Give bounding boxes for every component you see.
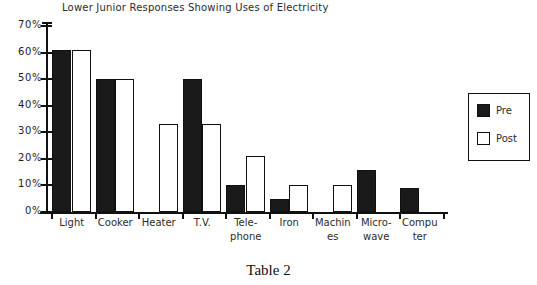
category-label-line1: Iron bbox=[280, 217, 299, 228]
y-axis-tick-label: 10% bbox=[18, 178, 42, 189]
y-axis-tick bbox=[41, 25, 52, 27]
bar-post bbox=[246, 156, 265, 212]
category-label: Computer bbox=[390, 216, 450, 244]
bar-post bbox=[202, 124, 221, 212]
y-axis-tick bbox=[41, 52, 52, 54]
y-axis-tick bbox=[41, 158, 52, 160]
bar-pre bbox=[400, 188, 419, 212]
category-label-line1: T.V. bbox=[194, 217, 211, 228]
bar-post bbox=[72, 50, 91, 212]
category-label-line2: ter bbox=[390, 230, 450, 244]
category-label-line1: Light bbox=[59, 217, 84, 228]
bar-pre bbox=[226, 185, 245, 212]
y-axis-tick-label: 40% bbox=[18, 99, 42, 110]
y-axis-tick-labels: 0%10%20%30%40%50%60%70% bbox=[2, 26, 42, 212]
y-axis-tick bbox=[41, 78, 52, 80]
y-axis-tick-label: 0% bbox=[25, 205, 42, 216]
bar-pre bbox=[52, 50, 71, 212]
legend-swatch-post-icon bbox=[477, 132, 490, 145]
category-label-line1: Micro- bbox=[361, 217, 392, 228]
y-axis-tick-label: 30% bbox=[18, 125, 42, 136]
y-axis-tick bbox=[41, 184, 52, 186]
bar-pre bbox=[270, 199, 289, 212]
chart-title: Lower Junior Responses Showing Uses of E… bbox=[62, 2, 402, 13]
legend-item-pre: Pre bbox=[477, 104, 512, 117]
category-label-line1: Compu bbox=[402, 217, 438, 228]
category-label-line1: Tele- bbox=[234, 217, 257, 228]
bar-pre bbox=[183, 79, 202, 212]
category-label-line2: phone bbox=[216, 230, 276, 244]
y-axis-tick-label: 50% bbox=[18, 72, 42, 83]
y-axis-tick-label: 60% bbox=[18, 46, 42, 57]
bar-pre bbox=[96, 79, 115, 212]
y-axis-tick-label: 70% bbox=[18, 19, 42, 30]
bar-post bbox=[115, 79, 134, 212]
y-axis-top-cap bbox=[42, 22, 52, 24]
y-axis-tick bbox=[41, 105, 52, 107]
legend-label-post: Post bbox=[496, 133, 517, 144]
bar-post bbox=[289, 185, 308, 212]
plot-area: 0%10%20%30%40%50%60%70% bbox=[46, 26, 448, 212]
legend-item-post: Post bbox=[477, 132, 517, 145]
category-label-line1: Cooker bbox=[98, 217, 133, 228]
bar-post bbox=[159, 124, 178, 212]
legend-swatch-pre-icon bbox=[477, 104, 490, 117]
legend-label-pre: Pre bbox=[496, 105, 512, 116]
category-axis-labels: LightCookerHeaterT.V.Tele-phoneIronMachi… bbox=[46, 216, 456, 262]
bar-pre bbox=[357, 170, 376, 213]
y-axis-tick bbox=[41, 131, 52, 133]
category-label-line1: Machin bbox=[315, 217, 351, 228]
chart-legend: Pre Post bbox=[468, 93, 530, 161]
bar-post bbox=[333, 185, 352, 212]
y-axis-tick-label: 20% bbox=[18, 152, 42, 163]
x-axis-line bbox=[40, 212, 448, 214]
category-label-line1: Heater bbox=[142, 217, 176, 228]
figure-caption: Table 2 bbox=[0, 262, 537, 279]
chart-figure: Lower Junior Responses Showing Uses of E… bbox=[0, 0, 537, 285]
